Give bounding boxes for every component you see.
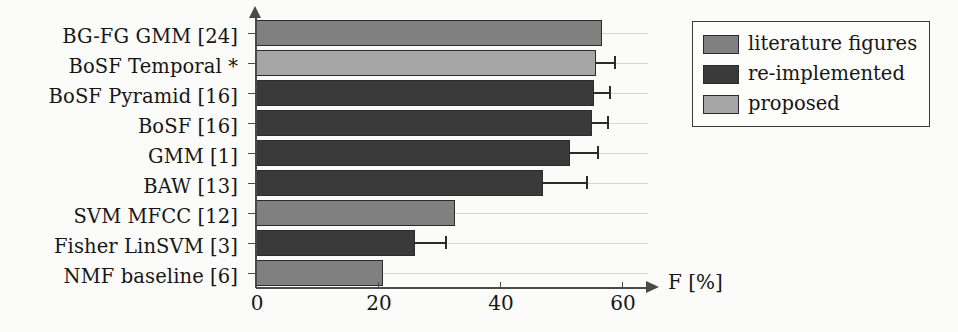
category-label-bosf: BoSF [16]	[138, 117, 238, 137]
category-label-bg-fg-gmm: BG-FG GMM [24]	[62, 27, 238, 47]
x-tick-label-40: 40	[488, 293, 513, 313]
error-bar-cap-gmm	[597, 146, 599, 159]
legend-item-literature-figures: literature figures	[703, 29, 919, 59]
x-tick-label-60: 60	[610, 293, 635, 313]
legend-label-re-implemented: re-implemented	[748, 64, 905, 84]
bar-bosf-temporal	[256, 50, 596, 76]
bar-fisher-linsvm	[256, 230, 415, 256]
error-bar-gmm	[570, 152, 598, 154]
x-tick-40	[500, 282, 501, 289]
x-axis-arrow-icon	[646, 281, 659, 293]
legend-label-proposed: proposed	[748, 94, 840, 114]
legend-item-proposed: proposed	[703, 89, 919, 119]
bar-bosf-pyramid	[256, 80, 594, 106]
x-tick-label-0: 0	[251, 293, 264, 313]
legend: literature figures re-implemented propos…	[692, 21, 930, 127]
x-axis-line	[256, 287, 648, 289]
legend-label-literature-figures: literature figures	[748, 34, 917, 54]
plot-area: BG-FG GMM [24] BoSF Temporal * BoSF Pyra…	[0, 0, 700, 332]
legend-swatch-literature-figures	[703, 35, 739, 54]
x-axis-title: F [%]	[668, 272, 723, 292]
error-bar-cap-bosf-temporal	[614, 56, 616, 69]
error-bar-baw	[543, 182, 587, 184]
error-bar-cap-bosf	[607, 116, 609, 129]
category-label-fisher-linsvm: Fisher LinSVM [3]	[54, 237, 238, 257]
category-label-bosf-temporal: BoSF Temporal *	[68, 57, 238, 77]
category-label-nmf-baseline: NMF baseline [6]	[64, 267, 238, 287]
bar-baw	[256, 170, 543, 196]
error-bar-bosf-pyramid	[594, 92, 610, 94]
bar-chart-figure: BG-FG GMM [24] BoSF Temporal * BoSF Pyra…	[0, 0, 958, 332]
error-bar-cap-bosf-pyramid	[609, 86, 611, 99]
category-label-gmm: GMM [1]	[148, 147, 238, 167]
bar-svm-mfcc	[256, 200, 455, 226]
x-tick-0	[256, 282, 257, 289]
legend-swatch-proposed	[703, 95, 739, 114]
category-label-svm-mfcc: SVM MFCC [12]	[74, 207, 238, 227]
bar-gmm	[256, 140, 570, 166]
x-tick-label-20: 20	[366, 293, 391, 313]
error-bar-cap-fisher-linsvm	[445, 236, 447, 249]
category-axis-labels: BG-FG GMM [24] BoSF Temporal * BoSF Pyra…	[0, 0, 246, 332]
y-axis-line	[255, 16, 257, 288]
legend-item-re-implemented: re-implemented	[703, 59, 919, 89]
y-axis-arrow-icon	[249, 6, 261, 18]
error-bar-bosf-temporal	[596, 62, 615, 64]
category-label-baw: BAW [13]	[143, 177, 238, 197]
bar-bosf	[256, 110, 592, 136]
x-tick-20	[378, 282, 379, 289]
bar-nmf-baseline	[256, 260, 383, 286]
legend-swatch-re-implemented	[703, 65, 739, 84]
error-bar-cap-baw	[586, 176, 588, 189]
x-tick-60	[622, 282, 623, 289]
category-label-bosf-pyramid: BoSF Pyramid [16]	[49, 87, 238, 107]
bar-bg-fg-gmm	[256, 20, 602, 46]
error-bar-bosf	[592, 122, 608, 124]
error-bar-fisher-linsvm	[415, 242, 446, 244]
